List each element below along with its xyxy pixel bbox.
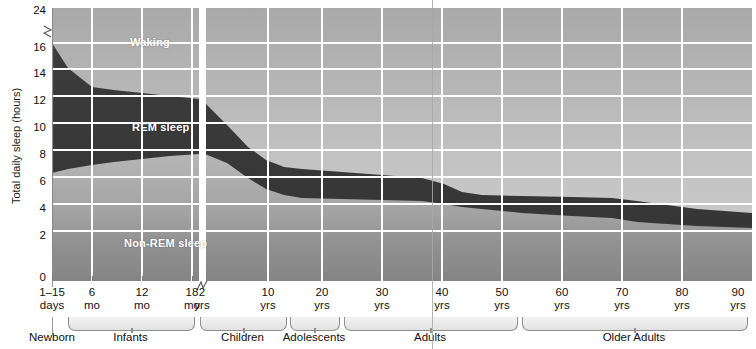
series-label-waking: Waking — [130, 36, 170, 48]
x-tick-50yrs-unit: yrs — [476, 299, 528, 312]
group-brace-adults — [344, 317, 518, 331]
y-tick-24: 24 — [22, 5, 46, 15]
age-group-axis: Newborn Infants Children Adolescents Adu… — [0, 317, 756, 349]
series-label-non-rem: Non-REM sleep — [124, 237, 207, 249]
x-tick-90yrs: 90 yrs — [712, 286, 756, 311]
x-tick-70yrs-unit: yrs — [596, 299, 648, 312]
x-tick-80yrs-unit: yrs — [656, 299, 708, 312]
x-tick-30yrs: 30 yrs — [356, 286, 408, 311]
vertical-overlay-line — [432, 0, 433, 349]
y-tick-2: 2 — [22, 230, 46, 240]
y-tick-14: 14 — [22, 68, 46, 78]
sleep-chart-figure: Total daily sleep (hours) 24 16 14 12 10… — [0, 0, 756, 349]
x-tick-2yrs-unit: yrs — [176, 299, 228, 312]
series-label-rem: REM sleep — [132, 121, 189, 133]
x-tick-50yrs: 50 yrs — [476, 286, 528, 311]
x-tick-80yrs-value: 80 — [656, 286, 708, 299]
x-tick-60yrs-unit: yrs — [536, 299, 588, 312]
x-tick-6mo: 6 mo — [66, 286, 118, 311]
x-tick-60yrs-value: 60 — [536, 286, 588, 299]
group-brace-children — [200, 317, 287, 331]
group-label-adults: Adults — [344, 331, 516, 343]
group-label-children: Children — [200, 331, 285, 343]
y-tick-4: 4 — [22, 203, 46, 213]
x-tick-60yrs: 60 yrs — [536, 286, 588, 311]
x-tick-70yrs: 70 yrs — [596, 286, 648, 311]
x-tick-10yrs: 10 yrs — [242, 286, 294, 311]
x-tick-12mo-value: 12 — [116, 286, 168, 299]
x-tick-10yrs-value: 10 — [242, 286, 294, 299]
y-tick-10: 10 — [22, 122, 46, 132]
plot-area: Waking REM sleep Non-REM sleep — [52, 8, 752, 281]
y-axis-tick-labels: 24 16 14 12 10 8 6 4 2 0 — [20, 0, 46, 290]
newborn-leader-top — [52, 281, 53, 287]
group-brace-adolescents — [290, 317, 340, 331]
x-tick-70yrs-value: 70 — [596, 286, 648, 299]
x-tick-90yrs-unit: yrs — [712, 299, 756, 312]
x-tick-40yrs: 40 yrs — [416, 286, 468, 311]
x-tick-12mo: 12 mo — [116, 286, 168, 311]
x-tick-2yrs-value: 2 — [176, 286, 228, 299]
group-brace-older-adults — [522, 317, 748, 331]
x-tick-90yrs-value: 90 — [712, 286, 756, 299]
group-label-adolescents: Adolescents — [276, 331, 352, 343]
x-tick-12mo-unit: mo — [116, 299, 168, 312]
x-tick-nub-12mo — [142, 276, 143, 281]
x-tick-80yrs: 80 yrs — [656, 286, 708, 311]
x-tick-20yrs: 20 yrs — [296, 286, 348, 311]
y-tick-6: 6 — [22, 176, 46, 186]
x-tick-2yrs: 2 yrs — [176, 286, 228, 311]
group-label-infants: Infants — [68, 331, 193, 343]
x-tick-20yrs-unit: yrs — [296, 299, 348, 312]
x-tick-30yrs-value: 30 — [356, 286, 408, 299]
x-tick-50yrs-value: 50 — [476, 286, 528, 299]
x-tick-30yrs-unit: yrs — [356, 299, 408, 312]
y-tick-8: 8 — [22, 149, 46, 159]
x-tick-20yrs-value: 20 — [296, 286, 348, 299]
x-tick-nub-18mo — [192, 276, 193, 281]
y-tick-16: 16 — [22, 42, 46, 52]
group-label-older-adults: Older Adults — [522, 331, 746, 343]
x-tick-nub-6mo — [92, 276, 93, 281]
x-tick-10yrs-unit: yrs — [242, 299, 294, 312]
x-tick-40yrs-unit: yrs — [416, 299, 468, 312]
x-tick-6mo-unit: mo — [66, 299, 118, 312]
x-tick-40yrs-value: 40 — [416, 286, 468, 299]
group-brace-infants — [68, 317, 195, 331]
x-tick-6mo-value: 6 — [66, 286, 118, 299]
y-tick-12: 12 — [22, 95, 46, 105]
